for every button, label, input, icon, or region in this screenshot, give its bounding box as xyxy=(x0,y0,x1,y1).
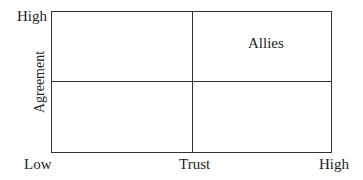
horizontal-divider xyxy=(51,81,332,82)
x-axis-high-label: High xyxy=(319,157,349,172)
y-axis-high-label: High xyxy=(17,9,47,24)
x-axis-low-label: Low xyxy=(24,157,52,172)
y-axis-title: Agreement xyxy=(32,51,48,113)
x-axis-title: Trust xyxy=(179,157,210,172)
quadrant-label-allies: Allies xyxy=(248,36,284,51)
